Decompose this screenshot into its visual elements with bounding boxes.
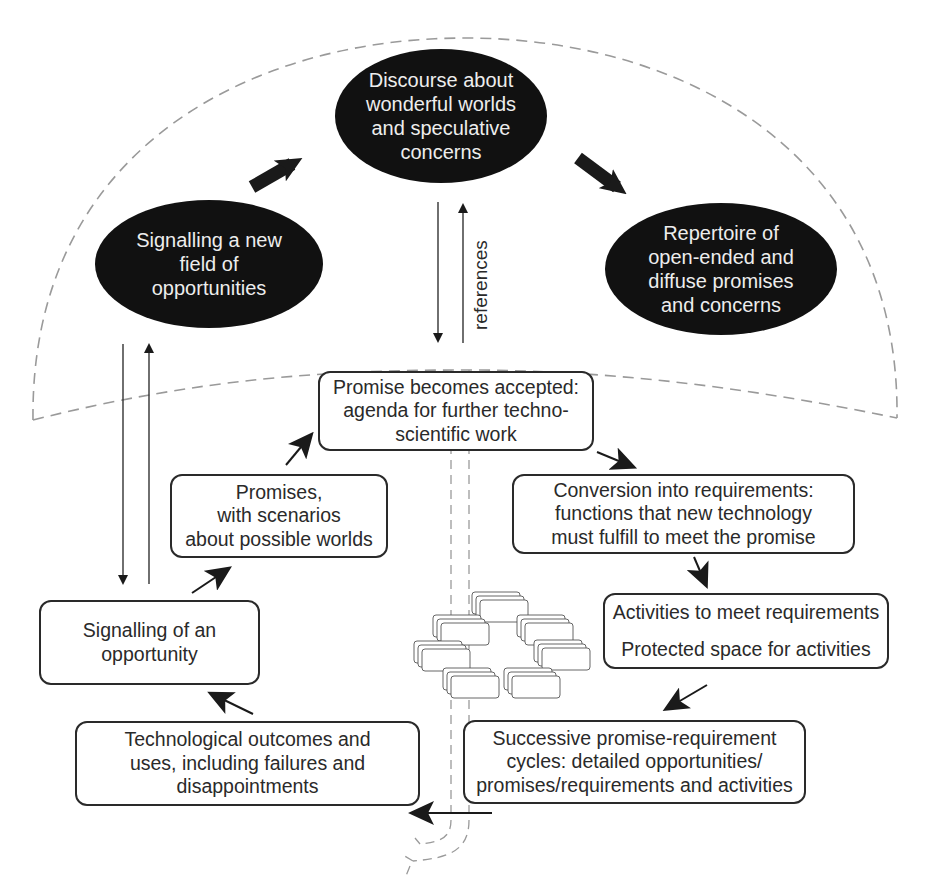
arrow-accepted-to-conversion [597,452,626,464]
box-outcomes: Technological outcomes and uses, includi… [75,721,420,806]
box-promise-accepted: Promise becomes accepted: agenda for fur… [318,371,594,451]
ellipse-discourse-label: Discourse about wonderful worlds and spe… [335,56,547,176]
box-promise-accepted-text: Promise becomes accepted: agenda for fur… [333,376,579,447]
arrow-outcomes-to-opportunity [218,697,253,714]
box-signalling-opportunity: Signalling of an opportunity [39,600,260,685]
arrow-activities-to-cycles [673,685,707,705]
ellipse-signalling-field-label: Signalling a new field of opportunities [95,210,323,318]
box-signalling-opportunity-text: Signalling of an opportunity [83,619,216,666]
box-outcomes-text: Technological outcomes and uses, includi… [124,728,370,799]
box-conversion: Conversion into requirements: functions … [512,474,855,554]
box-promises-scenarios: Promises, with scenarios about possible … [170,474,388,558]
box-activities-line1: Activities to meet requirements [613,601,880,625]
arrow-conversion-to-activities [694,557,703,578]
arrow-discourse-to-repertoire [578,158,617,187]
stacked-cycle-icon [414,592,590,698]
box-successive-cycles-text: Successive promise-requirement cycles: d… [476,727,792,798]
arrow-opportunity-to-promises [192,573,222,593]
box-promises-scenarios-text: Promises, with scenarios about possible … [185,481,373,552]
ellipse-repertoire-label: Repertoire of open-ended and diffuse pro… [605,209,837,329]
arrow-promises-to-accepted [286,441,306,465]
box-activities-line2: Protected space for activities [621,638,870,662]
box-successive-cycles: Successive promise-requirement cycles: d… [463,720,806,804]
arrow-signalling-to-discourse [252,164,292,187]
box-activities: Activities to meet requirements Protecte… [603,593,889,669]
references-label: references [470,240,492,330]
box-conversion-text: Conversion into requirements: functions … [551,479,815,550]
